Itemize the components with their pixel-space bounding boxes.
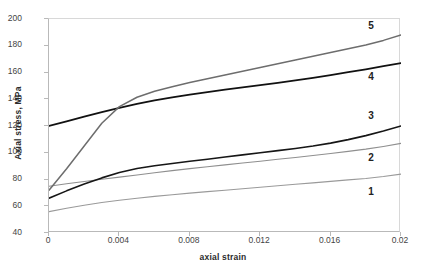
x-axis-tick-label: 0.004 — [98, 236, 138, 245]
y-axis-title: Axial stress, MPa — [13, 53, 23, 193]
series-label-2: 2 — [368, 152, 374, 163]
series-label-1: 1 — [368, 186, 374, 197]
y-axis-tick-label: 180 — [0, 40, 22, 49]
stress-strain-chart: 406080100120140160180200 00.0040.0080.01… — [0, 0, 426, 272]
series-label-3: 3 — [368, 110, 374, 121]
y-axis-tick-label: 60 — [0, 201, 22, 210]
y-axis-tick-label: 40 — [0, 228, 22, 237]
x-axis-tick-label: 0.016 — [310, 236, 350, 245]
x-axis-title: axial strain — [153, 252, 293, 262]
curve-canvas — [49, 19, 401, 233]
x-axis-tick-label: 0.02 — [380, 236, 420, 245]
plot-area — [48, 18, 400, 232]
x-axis-tick-label: 0.008 — [169, 236, 209, 245]
series-line-3 — [49, 126, 401, 198]
series-label-5: 5 — [368, 20, 374, 31]
x-axis-tick-label: 0.012 — [239, 236, 279, 245]
y-axis-tick-label: 200 — [0, 14, 22, 23]
x-axis-tick-label: 0 — [28, 236, 68, 245]
series-label-4: 4 — [368, 71, 374, 82]
series-line-4 — [49, 63, 401, 126]
